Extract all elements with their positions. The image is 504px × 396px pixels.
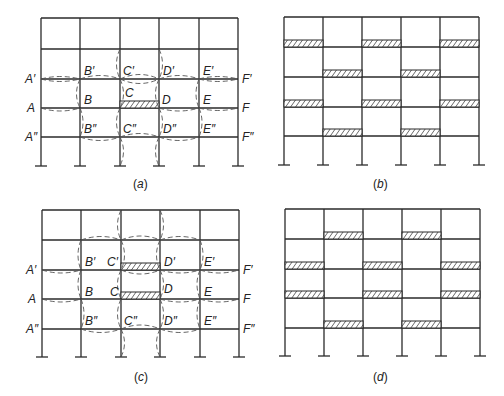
caption-d: (d) xyxy=(373,370,388,384)
caption-c: (c) xyxy=(134,370,148,384)
svg-text:A: A xyxy=(27,292,36,306)
label-a-prime: A′ xyxy=(24,72,36,86)
svg-text:C: C xyxy=(110,285,119,299)
label-c-prime: C′ xyxy=(123,64,135,78)
label-b-prime: B′ xyxy=(84,64,95,78)
label-e-dprime: E″ xyxy=(203,122,216,136)
label-c: C xyxy=(125,86,134,100)
label-c-dprime: C″ xyxy=(123,122,137,136)
yielded-beam-c-prime-d-prime xyxy=(121,263,160,270)
svg-text:D: D xyxy=(164,282,173,296)
svg-text:B: B xyxy=(85,285,93,299)
structural-frame-figure: A′ A A″ F′ F F″ B′ C′ D′ E′ B C D E B″ C… xyxy=(0,0,504,396)
frame-d: (d) xyxy=(279,209,486,384)
label-a: A xyxy=(26,101,35,115)
frame-a: A′ A A″ F′ F F″ B′ C′ D′ E′ B C D E B″ C… xyxy=(24,18,254,191)
yielded-beam-cd xyxy=(120,101,159,108)
svg-text:C″: C″ xyxy=(124,314,138,328)
svg-text:D′: D′ xyxy=(164,255,176,269)
svg-text:A″: A″ xyxy=(25,322,39,336)
svg-text:F′: F′ xyxy=(243,263,253,277)
svg-text:F: F xyxy=(243,292,251,306)
caption-a: (a) xyxy=(133,177,148,191)
svg-text:B″: B″ xyxy=(85,314,98,328)
label-b: B xyxy=(84,93,92,107)
label-d: D xyxy=(162,93,171,107)
svg-text:E: E xyxy=(204,285,213,299)
label-b-dprime: B″ xyxy=(84,122,97,136)
svg-text:C′: C′ xyxy=(107,255,119,269)
svg-text:E′: E′ xyxy=(204,255,215,269)
frame-c: A′ A A″ F′ F F″ B′ C′ D′ E′ B C D E B″ C… xyxy=(25,210,255,384)
svg-text:F″: F″ xyxy=(243,322,255,336)
frame-b: (b) xyxy=(278,17,485,191)
label-d-prime: D′ xyxy=(163,64,175,78)
deflection-curves xyxy=(42,210,239,357)
label-d-dprime: D″ xyxy=(163,122,177,136)
svg-text:A′: A′ xyxy=(25,263,37,277)
caption-b: (b) xyxy=(373,177,388,191)
label-f: F xyxy=(242,101,250,115)
label-e: E xyxy=(203,93,212,107)
yielded-beam-cd xyxy=(121,292,160,299)
svg-text:E″: E″ xyxy=(204,314,217,328)
label-f-dprime: F″ xyxy=(242,130,254,144)
label-f-prime: F′ xyxy=(242,72,252,86)
label-a-dprime: A″ xyxy=(24,130,38,144)
svg-text:D″: D″ xyxy=(164,314,178,328)
label-e-prime: E′ xyxy=(203,64,214,78)
svg-text:B′: B′ xyxy=(85,255,96,269)
